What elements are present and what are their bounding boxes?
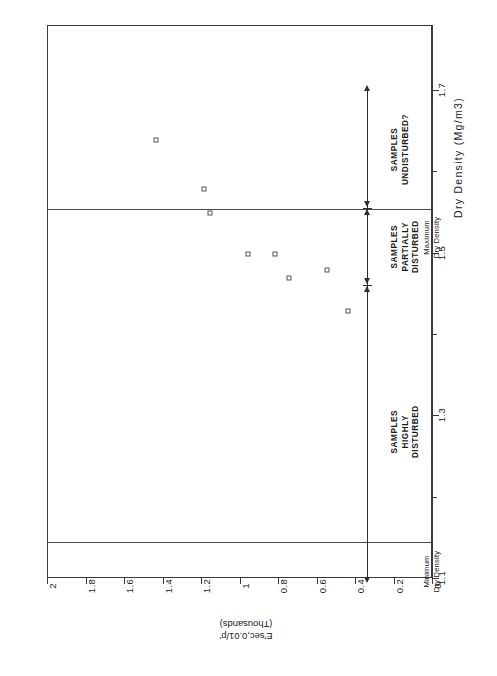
minimum-dry-density-label-line: Minimum — [421, 542, 431, 600]
samples-partially-disturbed-label: SAMPLESPARTIALLYDISTURBED — [390, 208, 422, 285]
data-point — [346, 308, 351, 313]
y-axis-tick-label: 0.6 — [317, 579, 328, 593]
data-point — [325, 267, 330, 272]
minimum-dry-density-label: MinimumDry Density — [421, 542, 440, 600]
samples-highly-disturbed-label-line: DISTURBED — [411, 285, 422, 578]
reference-line — [48, 542, 431, 543]
samples-undisturbed-label: SAMPLESUNDISTURBED? — [390, 90, 411, 208]
y-axis-label-units: (Thousands) — [176, 618, 316, 630]
minimum-dry-density-label-line: Dry Density — [431, 542, 441, 600]
data-point — [273, 251, 278, 256]
maximum-dry-density-label-line: Maximum — [421, 209, 431, 267]
data-point — [207, 211, 212, 216]
data-point — [153, 137, 158, 142]
zone-arrow-shaft — [367, 90, 368, 578]
plot-area — [48, 26, 431, 577]
plot-frame — [47, 25, 432, 578]
y-axis-label: E'sec,0.01/p' (Thousands) — [176, 618, 316, 642]
samples-highly-disturbed-label-line: HIGHLY — [400, 285, 411, 578]
x-axis-minor-tick — [432, 497, 437, 498]
y-axis-tick-label: 0.2 — [394, 579, 405, 593]
maximum-dry-density-label: MaximumDry Density — [421, 209, 440, 267]
y-axis-label-text: E'sec,0.01/p' — [176, 630, 316, 642]
y-axis-tick-label: 1 — [240, 583, 251, 589]
y-axis-tick-label: 1.6 — [124, 579, 135, 593]
y-axis-tick-label: 1.4 — [163, 579, 174, 593]
x-axis-tick-label: 1.7 — [436, 83, 447, 97]
data-point — [201, 186, 206, 191]
samples-highly-disturbed-label: SAMPLESHIGHLYDISTURBED — [390, 285, 422, 578]
x-axis-line — [432, 25, 433, 578]
data-point — [246, 251, 251, 256]
samples-undisturbed-label-line: UNDISTURBED? — [400, 90, 411, 208]
zone-boundary-arrowhead-upper — [364, 278, 370, 284]
zone-boundary-arrowhead-upper — [364, 201, 370, 207]
zone-arrowhead-top — [364, 85, 370, 91]
samples-partially-disturbed-label-line: SAMPLES — [390, 208, 401, 285]
zone-boundary-arrowhead-lower — [364, 286, 370, 292]
samples-undisturbed-label-line: SAMPLES — [390, 90, 401, 208]
y-axis-tick-label: 1.8 — [86, 579, 97, 593]
samples-highly-disturbed-label-line: SAMPLES — [390, 285, 401, 578]
zone-arrowhead-bottom — [364, 577, 370, 583]
samples-partially-disturbed-label-line: PARTIALLY — [400, 208, 411, 285]
zone-boundary-arrowhead-lower — [364, 209, 370, 215]
maximum-dry-density-label-line: Dry Density — [431, 209, 441, 267]
x-axis-tick-label: 1.3 — [436, 408, 447, 422]
x-axis-label: Dry Density (Mg/m3) — [452, 18, 464, 218]
y-axis-tick-label: 1.2 — [201, 579, 212, 593]
samples-partially-disturbed-label-line: DISTURBED — [411, 208, 422, 285]
reference-line — [48, 209, 431, 210]
y-axis-tick-label: 0.8 — [278, 579, 289, 593]
x-axis-minor-tick — [432, 334, 437, 335]
data-point — [286, 276, 291, 281]
x-axis-minor-tick — [432, 171, 437, 172]
y-axis-tick-label: 2 — [47, 583, 58, 589]
